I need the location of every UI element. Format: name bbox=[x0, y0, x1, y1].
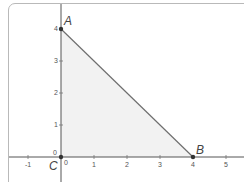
point-b-label: B bbox=[196, 143, 204, 157]
point-c[interactable] bbox=[59, 155, 63, 159]
x-tick-label: -1 bbox=[25, 161, 31, 168]
x-tick-label: 2 bbox=[125, 161, 129, 168]
y-tick-label: 4 bbox=[54, 25, 58, 32]
y-tick-label: 1 bbox=[54, 121, 58, 128]
y-tick-label: 2 bbox=[54, 89, 58, 96]
coordinate-plane: -1 0 1 2 3 4 5 0 1 2 3 4 A B C bbox=[0, 0, 244, 182]
point-b[interactable] bbox=[191, 155, 195, 159]
y-tick-label: 0 bbox=[53, 149, 57, 156]
x-tick-label: 1 bbox=[92, 161, 96, 168]
point-a-label: A bbox=[63, 14, 72, 28]
point-c-label: C bbox=[49, 159, 58, 173]
x-tick-label: 0 bbox=[64, 159, 68, 166]
x-tick-label: 4 bbox=[191, 161, 195, 168]
x-tick-label: 3 bbox=[158, 161, 162, 168]
y-tick-label: 3 bbox=[54, 57, 58, 64]
point-a[interactable] bbox=[59, 27, 63, 31]
x-tick-label: 5 bbox=[224, 161, 228, 168]
